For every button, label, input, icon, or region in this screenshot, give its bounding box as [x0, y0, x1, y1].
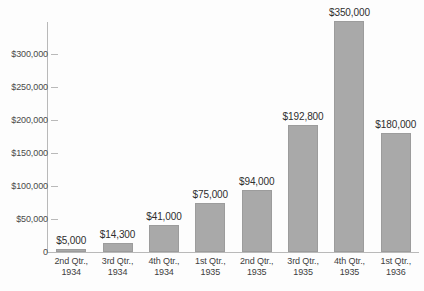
bar	[334, 21, 364, 252]
bar-value-label: $94,000	[239, 176, 274, 187]
x-axis-label-line: 1936	[373, 267, 419, 278]
y-axis-tick-label: $100,000	[11, 181, 51, 191]
bar-group: $180,000	[373, 0, 419, 252]
bar-chart: 0$50,000$100,000$150,000$200,000$250,000…	[0, 0, 424, 291]
x-axis-label-line: 4th Qtr.,	[141, 256, 187, 267]
x-axis-label-line: 1935	[280, 267, 326, 278]
bar	[288, 125, 318, 252]
x-axis-label-line: 1934	[48, 267, 94, 278]
bar-value-label: $14,300	[100, 229, 135, 240]
y-axis-tick-label: $250,000	[11, 82, 51, 92]
x-axis-label-line: 1935	[187, 267, 233, 278]
y-axis-tick-label: $50,000	[16, 214, 51, 224]
x-axis-label: 2nd Qtr.,1934	[48, 256, 94, 278]
bar-group: $350,000	[326, 0, 372, 252]
bar-group: $14,300	[94, 0, 140, 252]
bar-value-label: $350,000	[329, 7, 370, 18]
bar-group: $5,000	[48, 0, 94, 252]
x-axis-label: 2nd Qtr.,1935	[234, 256, 280, 278]
x-axis-label: 1st Qtr.,1936	[373, 256, 419, 278]
x-axis-label-line: 1934	[141, 267, 187, 278]
x-axis-label-line: 2nd Qtr.,	[234, 256, 280, 267]
bar-value-label: $5,000	[56, 235, 86, 246]
bar-value-label: $192,800	[283, 111, 324, 122]
x-axis-label: 4th Qtr.,1935	[326, 256, 372, 278]
x-axis-label-line: 3rd Qtr.,	[280, 256, 326, 267]
bar-group: $94,000	[234, 0, 280, 252]
x-axis-label-line: 1935	[234, 267, 280, 278]
x-axis-label-line: 4th Qtr.,	[326, 256, 372, 267]
plot-area: $5,000$14,300$41,000$75,000$94,000$192,8…	[48, 0, 419, 252]
bar-value-label: $41,000	[146, 211, 181, 222]
bar	[149, 225, 179, 252]
x-axis-label-line: 2nd Qtr.,	[48, 256, 94, 267]
x-axis-label-line: 3rd Qtr.,	[94, 256, 140, 267]
bar	[103, 243, 133, 252]
bar-group: $41,000	[141, 0, 187, 252]
x-axis-label-line: 1st Qtr.,	[187, 256, 233, 267]
bar-value-label: $180,000	[375, 119, 416, 130]
x-axis-label-line: 1934	[94, 267, 140, 278]
bar	[195, 203, 225, 253]
x-axis-label: 3rd Qtr.,1934	[94, 256, 140, 278]
y-axis-tick-label: $150,000	[11, 148, 51, 158]
bar	[242, 190, 272, 252]
y-axis-tick-label: $300,000	[11, 49, 51, 59]
bar-value-label: $75,000	[193, 189, 228, 200]
x-axis-label-line: 1st Qtr.,	[373, 256, 419, 267]
x-axis-label: 1st Qtr.,1935	[187, 256, 233, 278]
bar-group: $75,000	[187, 0, 233, 252]
x-axis-label: 3rd Qtr.,1935	[280, 256, 326, 278]
x-axis-label-line: 1935	[326, 267, 372, 278]
bar	[56, 249, 86, 252]
x-axis-line	[47, 252, 419, 253]
bar	[381, 133, 411, 252]
y-axis-tick-label: $200,000	[11, 115, 51, 125]
bar-group: $192,800	[280, 0, 326, 252]
x-axis-label: 4th Qtr.,1934	[141, 256, 187, 278]
